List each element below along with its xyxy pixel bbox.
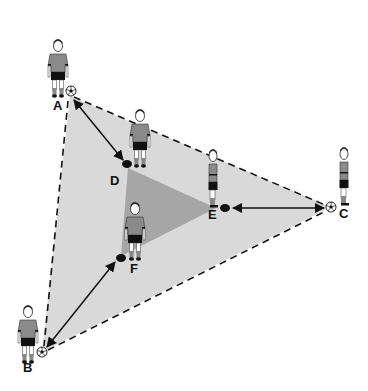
- player-a: [48, 39, 68, 98]
- drill-diagram: A B C D E F: [0, 0, 368, 391]
- label-d: D: [110, 174, 119, 187]
- label-e: E: [208, 208, 217, 221]
- label-b: B: [23, 361, 32, 374]
- label-a: A: [53, 99, 62, 112]
- ball-icon: [37, 347, 47, 357]
- label-c: C: [339, 207, 348, 220]
- ball-icon: [326, 202, 336, 212]
- outer-triangle-area: [42, 96, 331, 352]
- player-c: [340, 147, 350, 206]
- ball-icon: [66, 86, 76, 96]
- player-b: [18, 305, 38, 364]
- cone-e: [220, 204, 230, 212]
- cone-d: [122, 160, 132, 168]
- cone-f: [116, 254, 126, 262]
- label-f: F: [130, 262, 138, 275]
